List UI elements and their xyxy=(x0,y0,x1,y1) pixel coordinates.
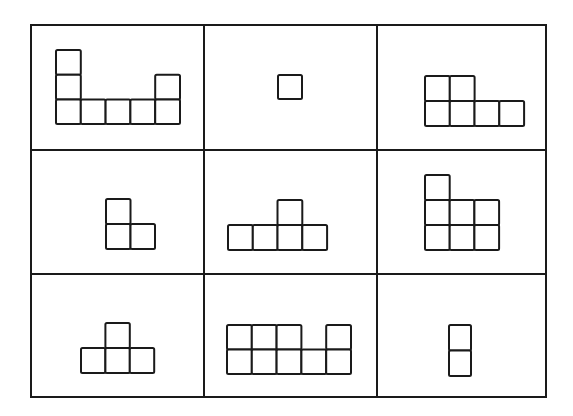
unit-square xyxy=(155,99,180,124)
figure-r2c0 xyxy=(81,323,154,373)
unit-square xyxy=(227,325,252,350)
figure-r2c1 xyxy=(227,325,351,374)
unit-square xyxy=(450,225,475,250)
unit-square xyxy=(277,325,302,350)
figure-r2c2 xyxy=(449,325,471,376)
figure-r0c0 xyxy=(56,50,180,124)
unit-square xyxy=(449,351,471,377)
unit-square xyxy=(130,99,155,124)
unit-square xyxy=(56,99,81,124)
unit-square xyxy=(449,325,471,351)
unit-square xyxy=(301,350,326,375)
puzzle-stage xyxy=(0,0,573,416)
unit-square xyxy=(155,75,180,100)
unit-square xyxy=(278,225,303,250)
unit-square xyxy=(450,76,475,101)
unit-square xyxy=(474,200,499,225)
unit-square xyxy=(277,350,302,375)
unit-square xyxy=(425,101,450,126)
unit-square xyxy=(252,325,277,350)
unit-square xyxy=(130,348,154,373)
unit-square xyxy=(228,225,253,250)
unit-square xyxy=(278,75,302,99)
figure-grid xyxy=(0,0,573,416)
unit-square xyxy=(425,225,450,250)
figure-r1c1 xyxy=(228,200,327,250)
unit-square xyxy=(106,199,131,224)
unit-square xyxy=(425,175,450,200)
unit-square xyxy=(105,348,129,373)
unit-square xyxy=(106,99,131,124)
unit-square xyxy=(106,224,131,249)
grid-cells xyxy=(56,50,524,376)
unit-square xyxy=(252,350,277,375)
figure-r0c2 xyxy=(425,76,524,126)
unit-square xyxy=(81,99,106,124)
unit-square xyxy=(326,350,351,375)
unit-square xyxy=(227,350,252,375)
unit-square xyxy=(450,200,475,225)
unit-square xyxy=(105,323,129,348)
figure-r1c2 xyxy=(425,175,499,250)
unit-square xyxy=(474,225,499,250)
unit-square xyxy=(56,75,81,100)
figure-r0c1 xyxy=(278,75,302,99)
unit-square xyxy=(302,225,327,250)
unit-square xyxy=(499,101,524,126)
unit-square xyxy=(475,101,500,126)
unit-square xyxy=(425,200,450,225)
unit-square xyxy=(56,50,81,75)
unit-square xyxy=(131,224,156,249)
unit-square xyxy=(253,225,278,250)
unit-square xyxy=(450,101,475,126)
unit-square xyxy=(278,200,303,225)
unit-square xyxy=(326,325,351,350)
unit-square xyxy=(81,348,105,373)
figure-r1c0 xyxy=(106,199,155,249)
unit-square xyxy=(425,76,450,101)
